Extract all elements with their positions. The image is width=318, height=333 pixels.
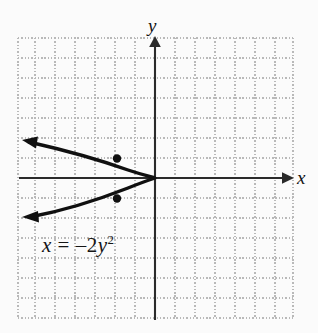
equation-annotation: x = –2y2 <box>42 232 115 258</box>
curve-arrow-upper-left-icon <box>22 137 38 149</box>
equation-operator: = <box>58 233 70 257</box>
x-axis-label: x <box>297 168 305 187</box>
graph-figure: y x x = –2y2 <box>0 0 318 333</box>
parabola-path <box>29 142 155 217</box>
equation-exponent: 2 <box>108 232 115 247</box>
point-marker <box>113 194 121 202</box>
equation-variable: y <box>98 233 108 257</box>
coordinate-plane <box>0 0 318 333</box>
point-marker <box>113 154 121 162</box>
y-axis-label: y <box>148 16 156 35</box>
equation-lhs: x <box>42 233 52 257</box>
equation-coefficient: –2 <box>76 233 98 257</box>
curve-arrow-lower-left-icon <box>22 211 39 223</box>
right-arrow-icon <box>282 172 294 184</box>
